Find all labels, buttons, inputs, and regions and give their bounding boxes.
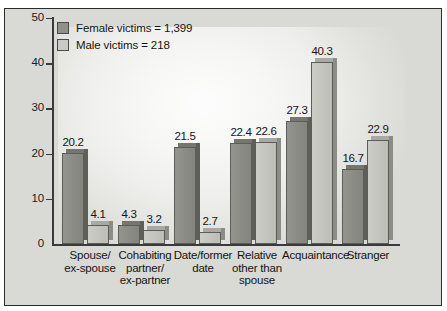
bar-front-face [62,153,84,244]
bar-front-face [342,169,364,244]
bar-side-face [109,221,113,240]
category-label-line: Stranger [340,249,396,262]
bar-female-2 [174,147,196,244]
category-label-1: Cohabitingpartner/ex-partner [114,249,176,287]
bar-side-face [277,138,281,240]
bar-male-5 [367,140,389,244]
category-label-line: spouse [228,274,286,287]
bar-side-face [333,58,337,240]
bar-value-label-female-2: 21.5 [168,130,202,142]
bar-front-face [199,232,221,244]
bar-front-face [367,140,389,244]
bar-value-label-male-2: 2.7 [193,215,227,227]
category-label-line: ex-spouse [62,262,118,275]
category-label-line: other than [228,262,286,275]
bar-front-face [174,147,196,244]
category-label-0: Spouse/ex-spouse [62,249,118,274]
bar-male-1 [143,230,165,244]
bar-value-label-female-4: 27.3 [280,104,314,116]
bar-front-face [255,142,277,244]
bar-female-5 [342,169,364,244]
category-label-line: Date/former [172,249,234,262]
category-label-line: Relative [228,249,286,262]
bar-value-label-male-5: 22.9 [361,123,395,135]
bar-male-0 [87,225,109,244]
category-label-4: Acquaintance [282,249,348,262]
bar-side-face [389,136,393,240]
bar-front-face [87,225,109,244]
category-label-3: Relativeother thanspouse [228,249,286,287]
bar-female-4 [286,121,308,244]
category-label-line: Acquaintance [282,249,348,262]
bar-female-3 [230,143,252,244]
bar-female-1 [118,225,140,244]
bar-male-2 [199,232,221,244]
bar-female-0 [62,153,84,244]
category-label-line: ex-partner [114,274,176,287]
bar-male-3 [255,142,277,244]
bar-side-face [221,228,225,240]
category-label-2: Date/formerdate [172,249,234,274]
bar-value-label-male-1: 3.2 [137,213,171,225]
category-label-line: partner/ [114,262,176,275]
bar-male-4 [311,62,333,244]
chart-figure: 01020304050 Female victims = 1,399 Male … [0,0,447,311]
bar-value-label-male-3: 22.6 [249,125,283,137]
category-label-line: Cohabiting [114,249,176,262]
bar-value-label-female-5: 16.7 [336,152,370,164]
bar-front-face [143,230,165,244]
bar-front-face [118,225,140,244]
bar-front-face [230,143,252,244]
bar-front-face [286,121,308,244]
bar-front-face [311,62,333,244]
category-label-5: Stranger [340,249,396,262]
bar-value-label-male-4: 40.3 [305,45,339,57]
category-label-line: date [172,262,234,275]
category-label-line: Spouse/ [62,249,118,262]
x-axis-category-labels: Spouse/ex-spouseCohabitingpartner/ex-par… [0,249,447,307]
bar-value-label-female-0: 20.2 [56,136,90,148]
bar-side-face [165,226,169,240]
bar-value-label-male-0: 4.1 [81,208,115,220]
